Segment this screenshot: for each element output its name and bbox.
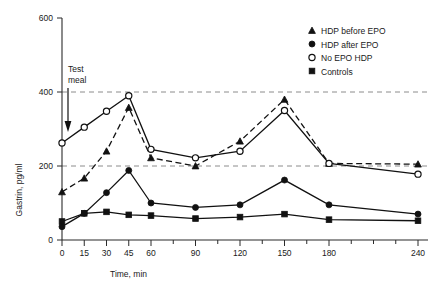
data-point-marker	[415, 218, 421, 224]
data-point-marker	[326, 160, 332, 166]
legend-item: No EPO HDP	[309, 53, 373, 63]
data-point-marker	[125, 104, 132, 110]
test-meal-label-line1: Test	[68, 64, 84, 74]
data-point-marker	[326, 202, 332, 208]
x-tick-label: 180	[322, 248, 336, 258]
y-tick-label: 400	[39, 87, 53, 97]
data-point-marker	[59, 219, 65, 225]
x-tick-label: 150	[277, 248, 291, 258]
data-point-marker	[237, 138, 244, 144]
legend-item-label: No EPO HDP	[321, 53, 373, 63]
data-point-marker	[326, 217, 332, 223]
x-tick-label: 45	[124, 248, 134, 258]
data-point-marker	[237, 214, 243, 220]
data-point-marker	[282, 177, 288, 183]
data-point-marker	[103, 148, 110, 154]
legend-item: Controls	[309, 67, 352, 77]
data-point-marker	[103, 108, 109, 114]
x-tick-label: 30	[102, 248, 112, 258]
y-axis-tick-labels: 6004002000	[39, 13, 53, 245]
legend-item-label: HDP after EPO	[321, 40, 379, 50]
data-point-marker	[237, 148, 243, 154]
data-point-marker	[148, 154, 155, 160]
y-axis-ticks	[57, 18, 62, 240]
series-controls	[59, 209, 421, 224]
data-point-marker	[81, 211, 87, 217]
data-point-marker	[309, 68, 315, 74]
legend: HDP before EPOHDP after EPONo EPO HDPCon…	[309, 26, 386, 77]
legend-item: HDP after EPO	[309, 40, 379, 50]
test-meal-label-line2: meal	[68, 75, 87, 85]
chart-canvas: 6004002000 01530456090120150180240 Time,…	[0, 0, 443, 288]
data-series-group	[59, 93, 422, 230]
data-point-marker	[148, 200, 154, 206]
data-point-marker	[148, 146, 154, 152]
data-point-marker	[126, 93, 132, 99]
data-point-marker	[81, 124, 87, 130]
data-point-marker	[309, 54, 315, 60]
legend-item-label: Controls	[321, 67, 353, 77]
series-line	[62, 99, 418, 191]
x-axis-tick-labels: 01530456090120150180240	[60, 248, 426, 258]
data-point-marker	[237, 202, 243, 208]
data-point-marker	[59, 189, 66, 195]
x-tick-label: 15	[80, 248, 90, 258]
series-no-epo-hdp	[59, 93, 421, 178]
data-point-marker	[104, 209, 110, 215]
data-point-marker	[148, 213, 154, 219]
test-meal-arrow-head	[65, 121, 72, 132]
data-point-marker	[193, 216, 199, 222]
data-point-marker	[192, 155, 198, 161]
data-point-marker	[193, 204, 199, 210]
legend-item-label: HDP before EPO	[321, 26, 386, 36]
data-point-marker	[281, 96, 288, 102]
gridlines	[62, 92, 428, 166]
x-axis-ticks	[62, 240, 418, 246]
y-tick-label: 600	[39, 13, 53, 23]
data-point-marker	[282, 211, 288, 217]
gastrin-time-line-chart: 6004002000 01530456090120150180240 Time,…	[0, 0, 443, 288]
x-axis-title: Time, min	[110, 269, 147, 279]
data-point-marker	[415, 211, 421, 217]
data-point-marker	[104, 190, 110, 196]
y-tick-label: 0	[48, 235, 53, 245]
data-point-marker	[281, 107, 287, 113]
x-tick-label: 120	[233, 248, 247, 258]
data-point-marker	[126, 167, 132, 173]
data-point-marker	[59, 140, 65, 146]
test-meal-annotation: Test meal	[65, 64, 87, 132]
x-tick-label: 240	[411, 248, 425, 258]
x-tick-label: 60	[146, 248, 156, 258]
series-hdp-before-epo	[59, 96, 422, 195]
data-point-marker	[309, 41, 315, 47]
data-point-marker	[415, 171, 421, 177]
x-tick-label: 0	[60, 248, 65, 258]
data-point-marker	[309, 27, 316, 33]
x-tick-label: 90	[191, 248, 201, 258]
data-point-marker	[126, 212, 132, 218]
legend-item: HDP before EPO	[309, 26, 386, 36]
y-axis-title: Gastrin, pg/ml	[14, 163, 24, 216]
y-tick-label: 200	[39, 161, 53, 171]
